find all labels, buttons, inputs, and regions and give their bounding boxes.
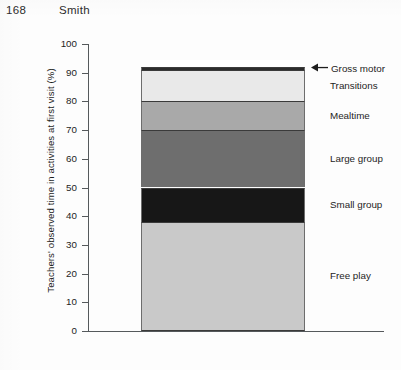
y-tick-mark <box>82 245 88 246</box>
y-tick-mark <box>82 101 88 102</box>
chart-page: 168 Smith Teachers' observed time in act… <box>0 0 401 370</box>
y-tick-mark <box>82 188 88 189</box>
y-axis-label: Teachers' observed time in activities at… <box>45 36 56 326</box>
y-tick-mark <box>82 159 88 160</box>
y-tick-label: 40 <box>33 211 77 221</box>
bar-segment-mealtime <box>141 101 305 130</box>
bar-segment-small-group <box>141 188 305 222</box>
y-tick-label: 100 <box>33 39 77 49</box>
bar-segment-large-group <box>141 130 305 187</box>
segment-label-free-play: Free play <box>330 271 371 281</box>
y-tick-label: 90 <box>33 68 77 78</box>
segment-label-gross-motor: Gross motor <box>311 63 385 74</box>
stacked-bar-chart: Teachers' observed time in activities at… <box>0 0 401 370</box>
x-axis-line <box>88 331 384 332</box>
y-tick-label: 0 <box>33 326 77 336</box>
bar-segment-transitions <box>141 70 305 102</box>
y-tick-label: 80 <box>33 96 77 106</box>
segment-label-transitions: Transitions <box>330 81 378 91</box>
y-tick-mark <box>82 302 88 303</box>
segment-label-text: Gross motor <box>331 64 385 74</box>
y-tick-mark <box>82 274 88 275</box>
bar-segment-free-play <box>141 222 305 331</box>
segment-label-small-group: Small group <box>330 200 382 210</box>
segment-label-large-group: Large group <box>330 154 383 164</box>
y-tick-mark <box>82 331 88 332</box>
y-tick-mark <box>82 216 88 217</box>
bar-segment-gross-motor <box>141 67 305 70</box>
segment-label-mealtime: Mealtime <box>330 111 370 121</box>
y-tick-mark <box>82 73 88 74</box>
y-axis-line <box>88 44 89 332</box>
y-tick-label: 10 <box>33 297 77 307</box>
y-tick-label: 30 <box>33 240 77 250</box>
y-tick-label: 20 <box>33 269 77 279</box>
y-tick-label: 60 <box>33 154 77 164</box>
y-tick-label: 50 <box>33 183 77 193</box>
left-arrow-icon <box>311 63 328 74</box>
y-tick-mark <box>82 130 88 131</box>
y-tick-mark <box>82 44 88 45</box>
y-tick-label: 70 <box>33 125 77 135</box>
